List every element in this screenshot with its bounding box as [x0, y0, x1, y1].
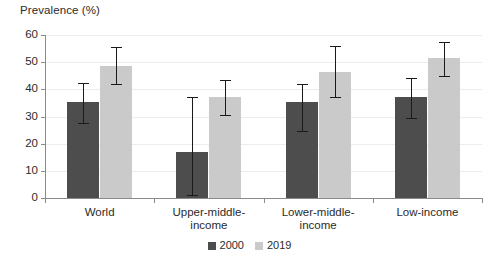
- legend-swatch-icon-2000: [208, 242, 216, 250]
- y-tick-label-wrap: 50: [0, 56, 38, 68]
- error-bar-cap-upper: [439, 42, 450, 43]
- x-tick-mark: [45, 198, 46, 203]
- legend-swatch-icon-2019: [255, 242, 263, 250]
- error-bar-cap-lower: [111, 84, 122, 85]
- error-bar-line-world-2019: [116, 47, 117, 84]
- x-category-label-world: World: [45, 206, 154, 219]
- error-bar-line-upper-middle-income-2000: [192, 97, 193, 195]
- error-bar-line-lower-middle-income-2000: [302, 84, 303, 132]
- legend-label-2000: 2000: [220, 240, 244, 251]
- error-bar-cap-lower: [220, 115, 231, 116]
- error-bar-line-world-2000: [83, 83, 84, 124]
- x-category-label-lower-middle-income: Lower-middle- income: [264, 206, 373, 232]
- error-bar-line-low-income-2000: [411, 78, 412, 117]
- error-bar-line-upper-middle-income-2019: [225, 80, 226, 115]
- y-tick-label: 40: [4, 83, 38, 95]
- error-bar-cap-lower: [78, 123, 89, 124]
- y-tick-label: 20: [4, 138, 38, 150]
- legend-item-2000[interactable]: 2000: [208, 240, 244, 251]
- error-bar-cap-upper: [187, 97, 198, 98]
- error-bar-cap-upper: [111, 47, 122, 48]
- x-tick-mark: [373, 198, 374, 203]
- bar-world-2019: [100, 66, 132, 198]
- x-category-label-upper-middle-income: Upper-middle- income: [154, 206, 263, 232]
- error-bar-cap-upper: [220, 80, 231, 81]
- y-tick-label-wrap: 30: [0, 111, 38, 123]
- error-bar-cap-upper: [330, 46, 341, 47]
- error-bar-cap-lower: [187, 195, 198, 196]
- y-tick-label-wrap: 0: [0, 192, 38, 204]
- y-tick-label: 0: [4, 192, 38, 204]
- y-tick-label-wrap: 40: [0, 83, 38, 95]
- plot-area: [45, 35, 482, 198]
- prevalence-bar-chart: Prevalence (%) 0102030405060 WorldUpper-…: [0, 0, 499, 270]
- error-bar-cap-lower: [330, 97, 341, 98]
- x-tick-mark: [264, 198, 265, 203]
- error-bar-cap-upper: [297, 84, 308, 85]
- x-tick-mark: [154, 198, 155, 203]
- y-tick-label-wrap: 60: [0, 29, 38, 41]
- error-bar-line-low-income-2019: [444, 42, 445, 76]
- cut-off-caption-artifact: [0, 263, 499, 270]
- y-tick-label: 10: [4, 165, 38, 177]
- y-axis-title: Prevalence (%): [20, 4, 100, 16]
- y-tick-label: 50: [4, 56, 38, 68]
- y-tick-label: 60: [4, 29, 38, 41]
- bar-low-income-2019: [428, 58, 460, 198]
- y-tick-label: 30: [4, 111, 38, 123]
- error-bar-cap-lower: [406, 118, 417, 119]
- x-tick-mark: [482, 198, 483, 203]
- legend-item-2019[interactable]: 2019: [255, 240, 291, 251]
- error-bar-cap-lower: [439, 76, 450, 77]
- error-bar-cap-lower: [297, 131, 308, 132]
- x-category-label-low-income: Low-income: [373, 206, 482, 219]
- error-bar-line-lower-middle-income-2019: [335, 46, 336, 98]
- error-bar-cap-upper: [78, 83, 89, 84]
- legend-label-2019: 2019: [267, 240, 291, 251]
- y-tick-label-wrap: 10: [0, 165, 38, 177]
- error-bar-cap-upper: [406, 78, 417, 79]
- y-tick-label-wrap: 20: [0, 138, 38, 150]
- chart-legend: 20002019: [0, 240, 499, 251]
